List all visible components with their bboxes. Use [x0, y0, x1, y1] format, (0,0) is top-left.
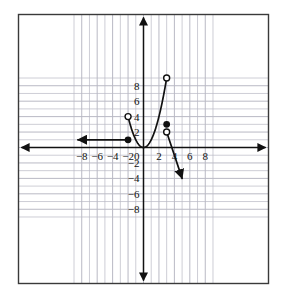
origin-label: 0 — [134, 150, 140, 162]
y-tick-label: −4 — [128, 172, 140, 184]
closed-point-marker — [125, 137, 130, 142]
y-tick-label: 4 — [134, 111, 140, 123]
x-tick-label: 8 — [203, 150, 209, 162]
x-tick-label: 2 — [156, 150, 162, 162]
x-tick-label: 6 — [187, 150, 193, 162]
open-point-marker — [125, 114, 131, 120]
y-tick-label: −6 — [128, 188, 140, 200]
x-tick-label: −8 — [76, 150, 88, 162]
y-tick-label: 6 — [134, 95, 140, 107]
open-point-marker — [164, 129, 170, 135]
graph-page: −8−6−4−224688642−2−4−6−80 — [0, 0, 285, 296]
coordinate-graph: −8−6−4−224688642−2−4−6−80 — [0, 0, 285, 296]
x-tick-label: −4 — [107, 150, 119, 162]
y-tick-label: 8 — [134, 80, 140, 92]
y-tick-label: −8 — [128, 203, 140, 215]
x-tick-label: −6 — [91, 150, 103, 162]
open-point-marker — [164, 75, 170, 81]
closed-point-marker — [164, 122, 169, 127]
